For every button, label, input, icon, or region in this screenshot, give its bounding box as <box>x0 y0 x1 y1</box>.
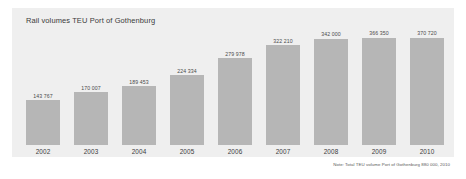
bar-value-label: 342 000 <box>321 31 340 37</box>
bar-group: 342 000 <box>314 30 348 145</box>
bar-value-label: 189 453 <box>129 79 148 85</box>
bar-value-label: 143 767 <box>33 93 52 99</box>
bar-group: 189 453 <box>122 30 156 145</box>
x-tick-label: 2007 <box>266 148 300 155</box>
bar-value-label: 370 720 <box>417 30 436 36</box>
bar-2003[interactable] <box>74 92 108 145</box>
bar-value-label: 279 978 <box>225 51 244 57</box>
bar-value-label: 224 334 <box>177 68 196 74</box>
x-axis: 2002 2003 2004 2005 2006 2007 2008 2009 … <box>26 148 444 155</box>
bar-value-label: 170 007 <box>81 85 100 91</box>
chart-footnote: Note: Total TEU volume Port of Gothenbur… <box>333 162 450 167</box>
chart-title: Rail volumes TEU Port of Gothenburg <box>26 16 155 25</box>
x-tick-label: 2003 <box>74 148 108 155</box>
bar-group: 279 978 <box>218 30 252 145</box>
bar-2006[interactable] <box>218 58 252 145</box>
bar-2005[interactable] <box>170 75 204 145</box>
bar-2007[interactable] <box>266 45 300 145</box>
plot-area: 143 767 170 007 189 453 224 334 279 978 <box>26 30 444 145</box>
chart-panel: Rail volumes TEU Port of Gothenburg 143 … <box>12 8 454 157</box>
bar-group: 170 007 <box>74 30 108 145</box>
bar-2002[interactable] <box>26 100 60 145</box>
bar-2010[interactable] <box>410 38 444 146</box>
bar-value-label: 322 210 <box>273 38 292 44</box>
chart-figure: Rail volumes TEU Port of Gothenburg 143 … <box>0 0 466 179</box>
bar-2008[interactable] <box>314 39 348 145</box>
x-tick-label: 2004 <box>122 148 156 155</box>
bar-group: 322 210 <box>266 30 300 145</box>
bar-2004[interactable] <box>122 86 156 145</box>
bar-group: 370 720 <box>410 30 444 145</box>
bar-group: 366 350 <box>362 30 396 145</box>
bar-2009[interactable] <box>362 38 396 146</box>
x-tick-label: 2005 <box>170 148 204 155</box>
x-tick-label: 2006 <box>218 148 252 155</box>
x-tick-label: 2002 <box>26 148 60 155</box>
bar-group: 143 767 <box>26 30 60 145</box>
x-tick-label: 2008 <box>314 148 348 155</box>
bar-value-label: 366 350 <box>369 30 388 36</box>
bar-group: 224 334 <box>170 30 204 145</box>
x-tick-label: 2010 <box>410 148 444 155</box>
x-tick-label: 2009 <box>362 148 396 155</box>
